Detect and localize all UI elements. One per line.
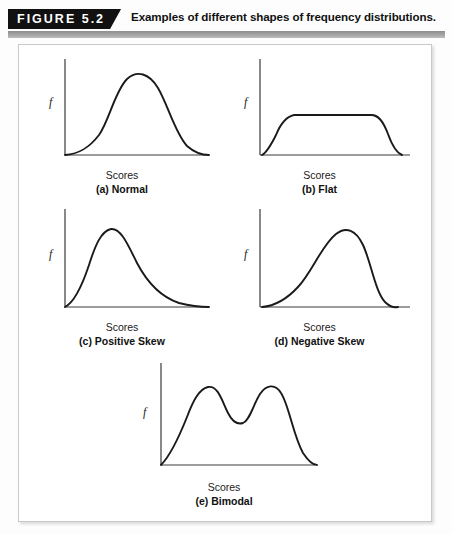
x-axis-label-a: Scores — [27, 169, 217, 181]
curve-bimodal — [161, 386, 317, 465]
curve-normal — [65, 74, 209, 155]
plot-area-flat — [222, 51, 417, 169]
chart-negative-skew: f Scores (d) Negative Skew — [222, 201, 417, 353]
y-axis-label-a: f — [49, 95, 52, 110]
figure-title: Examples of different shapes of frequenc… — [131, 10, 436, 23]
plot-area-negative-skew — [222, 201, 417, 321]
header-divider-rule — [8, 31, 445, 38]
chart-flat: f Scores (b) Flat — [222, 51, 417, 201]
x-axis-label-d: Scores — [222, 321, 417, 333]
chart-caption-a: (a) Normal — [27, 183, 217, 195]
curve-flat — [262, 115, 402, 155]
chart-normal: f Scores (a) Normal — [27, 51, 217, 201]
chart-caption-d: (d) Negative Skew — [222, 335, 417, 347]
x-axis-label-e: Scores — [119, 481, 329, 493]
x-axis-label-c: Scores — [27, 321, 217, 333]
chart-caption-e: (e) Bimodal — [119, 495, 329, 507]
y-axis-label-c: f — [49, 247, 52, 262]
x-axis-label-b: Scores — [222, 169, 417, 181]
plot-area-positive-skew — [27, 201, 217, 321]
figure-header: FIGURE 5.2 Examples of different shapes … — [0, 0, 452, 44]
chart-bimodal: f Scores (e) Bimodal — [119, 355, 329, 515]
curve-negative-skew — [262, 230, 398, 307]
y-axis-label-e: f — [143, 405, 146, 420]
chart-grid: f Scores (a) Normal f Scores (b) Fla — [19, 45, 433, 523]
y-axis-label-d: f — [244, 247, 247, 262]
chart-caption-b: (b) Flat — [222, 183, 417, 195]
figure-panel: f Scores (a) Normal f Scores (b) Fla — [18, 44, 432, 522]
chart-positive-skew: f Scores (c) Positive Skew — [27, 201, 217, 353]
plot-area-bimodal — [119, 355, 329, 481]
figure-container: FIGURE 5.2 Examples of different shapes … — [0, 0, 452, 534]
y-axis-label-b: f — [244, 95, 247, 110]
figure-number-tag: FIGURE 5.2 — [8, 9, 121, 29]
plot-area-normal — [27, 51, 217, 169]
chart-caption-c: (c) Positive Skew — [27, 335, 217, 347]
curve-positive-skew — [65, 229, 209, 307]
